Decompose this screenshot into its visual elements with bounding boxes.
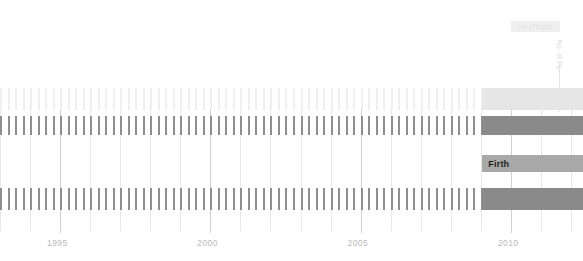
official-badge[interactable]: pll official (511, 21, 560, 32)
vertical-label-rule (559, 64, 560, 112)
annotations-layer: pll official No. of PL (0, 0, 583, 261)
vertical-axis-label: No. of PL (556, 40, 563, 70)
chart-canvas: Firth 1995200020052010 pll official No. … (0, 0, 583, 261)
timeline-plot: Firth 1995200020052010 pll official No. … (0, 0, 583, 261)
